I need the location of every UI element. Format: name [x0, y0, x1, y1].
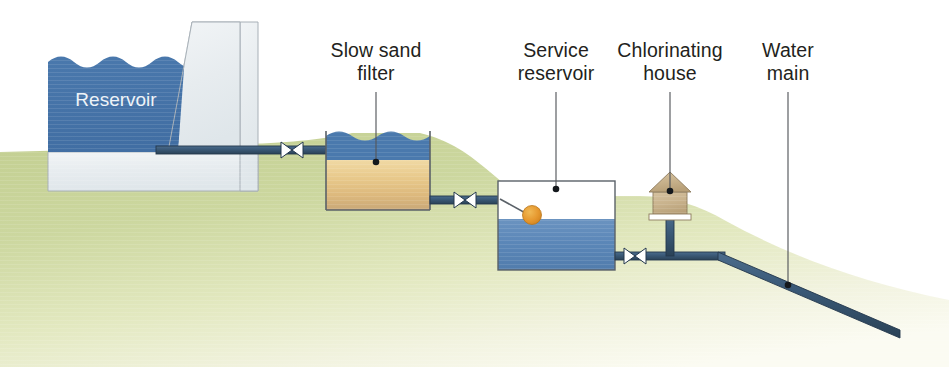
water-supply-diagram: Reservoir [0, 0, 949, 367]
chlorinating-house-label-line2: house [643, 62, 697, 84]
label-chlorinating-house: Chlorinating house [617, 39, 722, 194]
slow-sand-filter-label-line1: Slow sand [331, 39, 422, 61]
chlorinating-house-leader-dot [667, 188, 674, 195]
service-reservoir-tank [498, 181, 615, 270]
slow-sand-filter-leader-dot [373, 159, 380, 166]
service-reservoir-leader-dot [553, 186, 560, 193]
dam-face-overlay [178, 22, 240, 152]
slow-sand-filter-tank [326, 131, 430, 210]
pipe-chlorine-riser [666, 216, 674, 256]
label-service-reservoir: Service reservoir [518, 39, 595, 192]
reservoir-water-body: Reservoir [48, 22, 240, 152]
service-tank-water-texture [498, 219, 615, 270]
service-reservoir-label-line1: Service [523, 39, 589, 61]
diagram-canvas: Reservoir [0, 0, 949, 367]
service-reservoir-label-line2: reservoir [518, 62, 595, 84]
chlorinating-house-label-line1: Chlorinating [617, 39, 722, 61]
reservoir-label: Reservoir [75, 89, 157, 110]
dam-base-texture [48, 152, 258, 191]
water-main-label-line1: Water [762, 39, 814, 61]
sand-bed-texture [326, 160, 430, 210]
house-body-texture [653, 192, 687, 216]
house-base-plinth [649, 214, 691, 220]
water-main-leader-dot [785, 282, 792, 289]
slow-sand-filter-label-line2: filter [357, 62, 395, 84]
ball-float-valve[interactable] [523, 206, 542, 225]
water-main-label-line2: main [767, 62, 810, 84]
